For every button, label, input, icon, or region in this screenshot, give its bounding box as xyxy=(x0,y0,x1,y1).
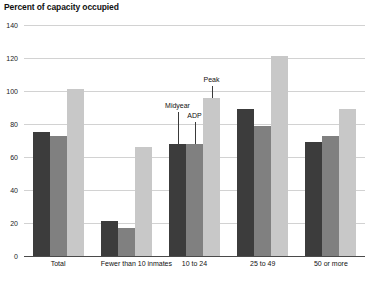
series-annotation-label: Peak xyxy=(204,76,220,83)
bar xyxy=(271,56,288,256)
x-axis-category-label: Fewer than 10 inmates xyxy=(101,260,152,267)
y-axis-tick-label: 80 xyxy=(10,121,18,128)
axis-baseline xyxy=(24,256,365,257)
bar-group: Fewer than 10 inmates xyxy=(101,25,152,256)
y-axis-tick-label: 100 xyxy=(6,88,18,95)
bar-chart: Percent of capacity occupied 02040608010… xyxy=(0,0,373,281)
bars xyxy=(305,25,356,256)
y-axis-tick-label: 20 xyxy=(10,220,18,227)
annotation-leader-line xyxy=(195,122,196,144)
bars xyxy=(33,25,84,256)
plot-area: 020406080100120140 TotalFewer than 10 in… xyxy=(24,25,365,256)
annotation-leader-line xyxy=(178,112,179,144)
chart-title: Percent of capacity occupied xyxy=(4,2,119,12)
x-axis-category-label: 10 to 24 xyxy=(169,260,220,267)
y-axis-tick-label: 140 xyxy=(6,22,18,29)
bar xyxy=(50,136,67,256)
y-axis-tick-label: 120 xyxy=(6,55,18,62)
y-axis-tick-label: 60 xyxy=(10,154,18,161)
series-annotation-label: Midyear xyxy=(165,102,190,109)
series-annotation-label: ADP xyxy=(187,112,201,119)
bar xyxy=(67,89,84,256)
bar xyxy=(305,142,322,256)
bar-group: 50 or more xyxy=(305,25,356,256)
annotation-leader-line xyxy=(212,86,213,98)
bars xyxy=(237,25,288,256)
bars xyxy=(101,25,152,256)
bar xyxy=(101,221,118,256)
bar xyxy=(254,126,271,256)
bar-group: 25 to 49 xyxy=(237,25,288,256)
x-axis-category-label: 50 or more xyxy=(305,260,356,267)
bar xyxy=(203,98,220,256)
bar xyxy=(135,147,152,256)
y-axis-tick-label: 40 xyxy=(10,187,18,194)
x-axis-category-label: Total xyxy=(33,260,84,267)
bar xyxy=(118,228,135,256)
bar xyxy=(33,132,50,256)
bar xyxy=(322,136,339,256)
bar xyxy=(237,109,254,256)
y-axis-tick-label: 0 xyxy=(14,253,18,260)
x-axis-category-label: 25 to 49 xyxy=(237,260,288,267)
bar xyxy=(169,144,186,256)
bar xyxy=(186,144,203,256)
bar-group: Total xyxy=(33,25,84,256)
bar xyxy=(339,109,356,256)
